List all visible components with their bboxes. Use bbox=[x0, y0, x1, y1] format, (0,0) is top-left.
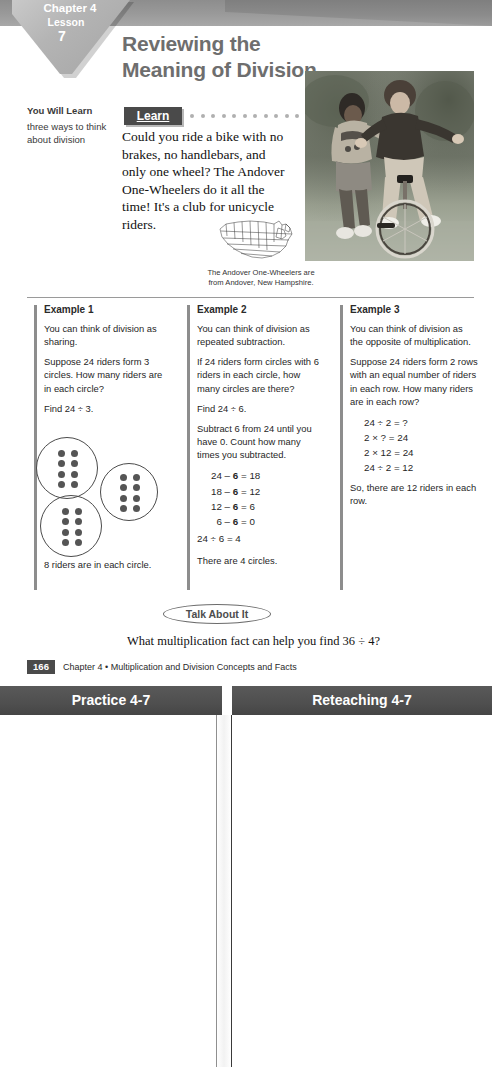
decorative-dot bbox=[232, 114, 236, 118]
rider-dot bbox=[133, 484, 140, 491]
figure-caption: The Andover One-Wheelers are from Andove… bbox=[202, 268, 320, 288]
rider-dot bbox=[75, 508, 82, 515]
example-1-text-3: Find 24 ÷ 3. bbox=[44, 402, 172, 415]
group-circle bbox=[40, 495, 102, 557]
rider-dot bbox=[133, 505, 140, 512]
rider-dot bbox=[133, 474, 140, 481]
example-1-text-1: You can think of division as sharing. bbox=[44, 322, 172, 348]
lesson-label: Lesson bbox=[10, 16, 122, 28]
reteaching-title: Reteaching 4-7 bbox=[232, 686, 492, 715]
example-2-text-3: Find 24 ÷ 6. bbox=[197, 402, 325, 415]
example-1-conclusion: 8 riders are in each circle. bbox=[44, 558, 172, 571]
rider-dot bbox=[71, 481, 78, 488]
decorative-dot bbox=[222, 114, 226, 118]
worksheet-divider-sheen bbox=[217, 715, 231, 1067]
learn-badge-label: Learn bbox=[124, 107, 182, 125]
example-2-text-4: Subtract 6 from 24 until you have 0. Cou… bbox=[197, 422, 325, 461]
chapter-label: Chapter 4 bbox=[14, 2, 126, 14]
rider-dot bbox=[62, 508, 69, 515]
equation-line: 24 ÷ 2 = 12 bbox=[364, 460, 478, 475]
decorative-dot bbox=[295, 114, 299, 118]
decorative-dot bbox=[285, 114, 289, 118]
example-2-rule bbox=[187, 305, 190, 590]
equation-line: 6 – 6 = 0 bbox=[211, 514, 325, 529]
rider-dot bbox=[62, 529, 69, 536]
equation-line: 12 – 6 = 6 bbox=[211, 499, 325, 514]
example-2-heading: Example 2 bbox=[197, 303, 325, 317]
example-3-text-2: Suppose 24 riders form 2 rows with an eq… bbox=[350, 355, 478, 408]
group-circle bbox=[36, 437, 98, 499]
decorative-dot bbox=[243, 114, 247, 118]
rider-dot bbox=[71, 460, 78, 467]
lesson-number: 7 bbox=[6, 28, 118, 44]
talk-about-it-badge: Talk About It bbox=[163, 604, 271, 624]
footer-text: Chapter 4 • Multiplication and Division … bbox=[63, 662, 297, 672]
page-number: 166 bbox=[27, 660, 55, 674]
group-circle bbox=[100, 463, 158, 521]
example-3-text-1: You can think of division as the opposit… bbox=[350, 322, 478, 348]
example-1-heading: Example 1 bbox=[44, 303, 172, 317]
rider-dot bbox=[58, 450, 65, 457]
equation-line: 2 × 12 = 24 bbox=[364, 445, 478, 460]
example-2: Example 2 You can think of division as r… bbox=[197, 303, 325, 574]
page-number-badge: 166 bbox=[27, 660, 55, 674]
practice-title: Practice 4-7 bbox=[0, 686, 222, 715]
worksheet-divider-right bbox=[231, 715, 232, 1067]
example-2-steps: 24 – 6 = 1818 – 6 = 1212 – 6 = 6 6 – 6 =… bbox=[211, 468, 325, 529]
rider-dot bbox=[58, 460, 65, 467]
rider-dot bbox=[71, 471, 78, 478]
equation-line: 24 ÷ 2 = ? bbox=[364, 415, 478, 430]
rider-dot bbox=[58, 481, 65, 488]
equation-line: 2 × ? = 24 bbox=[364, 430, 478, 445]
rider-dot bbox=[120, 474, 127, 481]
rider-dot bbox=[58, 471, 65, 478]
example-2-text-2: If 24 riders form circles with 6 riders … bbox=[197, 355, 325, 394]
equation-line: 24 – 6 = 18 bbox=[211, 468, 325, 483]
decorative-dot bbox=[201, 114, 205, 118]
example-2-text-1: You can think of division as repeated su… bbox=[197, 322, 325, 348]
rider-dot bbox=[120, 484, 127, 491]
rider-dot bbox=[120, 495, 127, 502]
page-title: Reviewing the Meaning of Division bbox=[122, 31, 322, 82]
decorative-dot bbox=[264, 114, 268, 118]
lesson-photo bbox=[305, 71, 474, 261]
example-1: Example 1 You can think of division as s… bbox=[44, 303, 172, 422]
decorative-dot-row bbox=[190, 114, 305, 120]
example-3-conclusion: So, there are 12 riders in each row. bbox=[350, 481, 478, 507]
rider-dot bbox=[75, 518, 82, 525]
rider-dot bbox=[75, 529, 82, 536]
decorative-dot bbox=[211, 114, 215, 118]
example-3-heading: Example 3 bbox=[350, 303, 478, 317]
equation-line: 18 – 6 = 12 bbox=[211, 484, 325, 499]
rider-dot bbox=[62, 539, 69, 546]
you-will-learn-body: three ways to think about division bbox=[27, 120, 107, 146]
decorative-dot bbox=[190, 114, 194, 118]
worksheet-divider-left bbox=[216, 715, 217, 1067]
example-2-result: 24 ÷ 6 = 4 bbox=[197, 532, 325, 547]
example-2-conclusion: There are 4 circles. bbox=[197, 554, 325, 567]
you-will-learn-heading: You Will Learn bbox=[27, 105, 92, 116]
rider-dot bbox=[62, 518, 69, 525]
worksheet-header-gap bbox=[222, 686, 232, 715]
talk-about-it-question: What multiplication fact can help you fi… bbox=[127, 634, 457, 649]
example-1-text-2: Suppose 24 riders form 3 circles. How ma… bbox=[44, 355, 172, 394]
practice-header: Practice 4-7 bbox=[0, 686, 222, 715]
rider-dot bbox=[133, 495, 140, 502]
decorative-dot bbox=[253, 114, 257, 118]
us-map-illustration bbox=[216, 212, 296, 264]
sharing-circles-diagram bbox=[36, 437, 172, 557]
learn-badge: Learn bbox=[124, 107, 182, 125]
talk-about-it-label: Talk About It bbox=[164, 605, 270, 623]
example-3-steps: 24 ÷ 2 = ?2 × ? = 242 × 12 = 2424 ÷ 2 = … bbox=[364, 415, 478, 476]
examples-top-rule bbox=[27, 297, 474, 298]
rider-dot bbox=[75, 539, 82, 546]
reteaching-header: Reteaching 4-7 bbox=[232, 686, 492, 715]
decorative-dot bbox=[274, 114, 278, 118]
example-3-rule bbox=[340, 305, 343, 590]
rider-dot bbox=[71, 450, 78, 457]
rider-dot bbox=[120, 505, 127, 512]
example-3: Example 3 You can think of division as t… bbox=[350, 303, 478, 514]
